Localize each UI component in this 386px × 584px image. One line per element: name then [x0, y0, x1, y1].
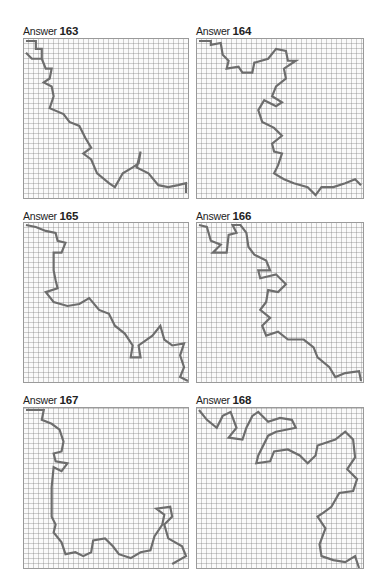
answer-167-label: Answer 167 [23, 394, 78, 406]
solution-path-163 [24, 39, 188, 198]
answer-163-label: Answer 163 [23, 25, 78, 37]
solution-path-165 [24, 223, 188, 382]
answer-number: 165 [60, 210, 79, 222]
solution-path-168 [197, 408, 363, 568]
answer-prefix: Answer [196, 394, 230, 406]
answer-number: 167 [60, 394, 79, 406]
maze-168 [196, 407, 364, 569]
maze-165 [23, 222, 189, 383]
maze-167 [23, 407, 189, 569]
answer-prefix: Answer [23, 210, 57, 222]
answer-166-label: Answer 166 [196, 210, 251, 222]
answer-164-label: Answer 164 [196, 25, 251, 37]
answer-number: 168 [233, 394, 252, 406]
solution-path-167 [24, 408, 188, 568]
answer-168-label: Answer 168 [196, 394, 251, 406]
maze-164 [196, 38, 364, 199]
answer-165-label: Answer 165 [23, 210, 78, 222]
answer-number: 164 [233, 25, 252, 37]
answer-number: 166 [233, 210, 252, 222]
answer-prefix: Answer [196, 25, 230, 37]
answer-prefix: Answer [23, 394, 57, 406]
solution-path-166 [197, 223, 363, 382]
answer-number: 163 [60, 25, 79, 37]
maze-166 [196, 222, 364, 383]
solution-path-164 [197, 39, 363, 198]
answer-prefix: Answer [196, 210, 230, 222]
maze-163 [23, 38, 189, 199]
answer-prefix: Answer [23, 25, 57, 37]
